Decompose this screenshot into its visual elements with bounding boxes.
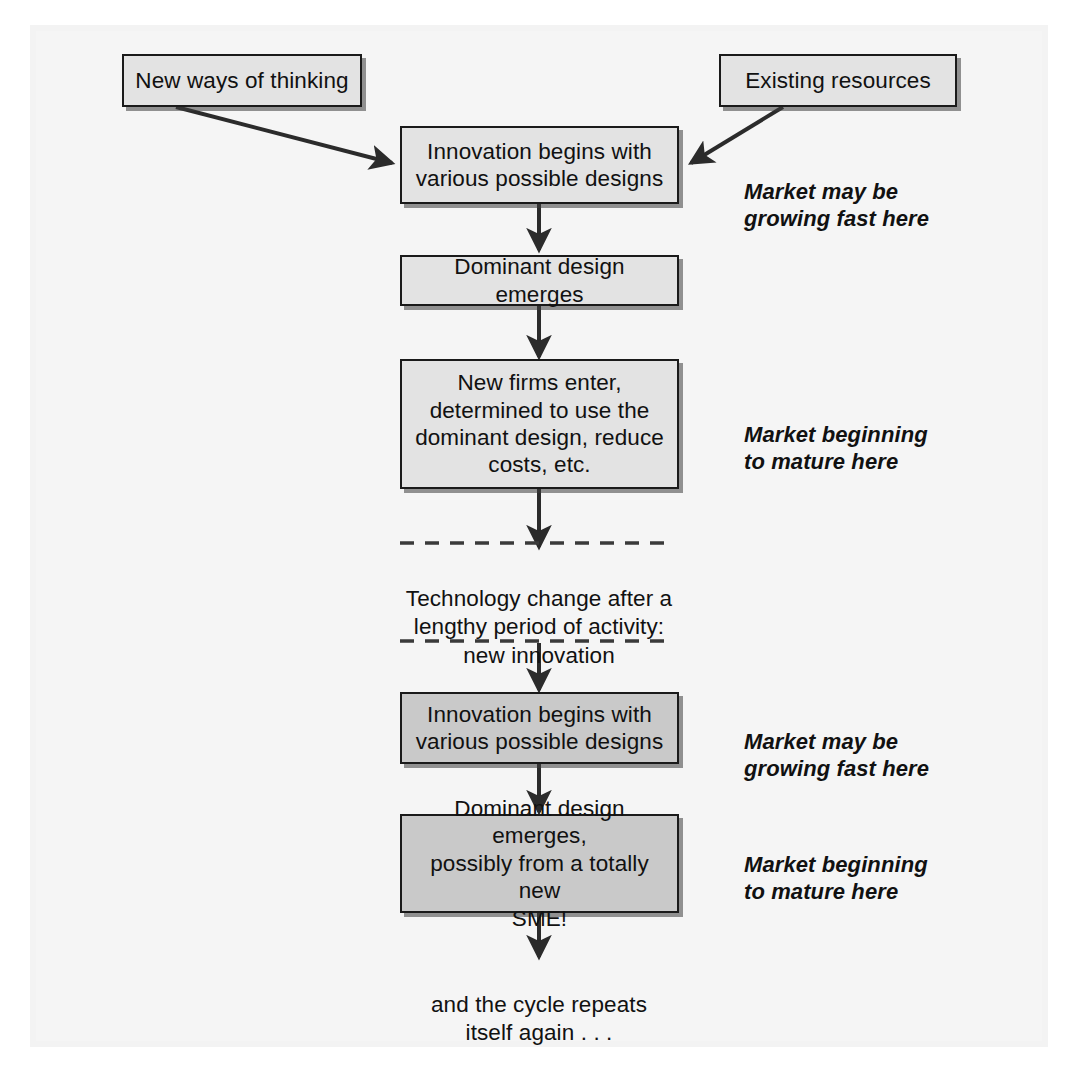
- node-dominant-design-emerges[interactable]: Dominant design emerges: [400, 255, 679, 306]
- node-new-firms-enter[interactable]: New firms enter, determined to use the d…: [400, 359, 679, 489]
- closing-text: and the cycle repeats itself again . . .: [431, 992, 647, 1046]
- note-text: Market may be growing fast here: [744, 729, 929, 782]
- node-new-ways-of-thinking[interactable]: New ways of thinking: [122, 54, 362, 107]
- technology-change-note: Technology change after a lengthy period…: [362, 556, 716, 670]
- note-text: Market may be growing fast here: [744, 179, 929, 232]
- node-label: Dominant design emerges, possibly from a…: [402, 795, 677, 932]
- cycle-repeats-note: and the cycle repeats itself again . . .: [372, 962, 706, 1048]
- note-text: Market beginning to mature here: [744, 422, 928, 475]
- note-text: Market beginning to mature here: [744, 852, 928, 905]
- node-label: Innovation begins with various possible …: [402, 701, 677, 756]
- node-label: Dominant design emerges: [402, 253, 677, 308]
- node-innovation-begins-2[interactable]: Innovation begins with various possible …: [400, 692, 679, 764]
- node-label: New ways of thinking: [124, 67, 360, 94]
- diagram-canvas: New ways of thinking Existing resources …: [0, 0, 1082, 1073]
- interstitial-text: Technology change after a lengthy period…: [406, 586, 672, 668]
- node-label: New firms enter, determined to use the d…: [402, 369, 677, 479]
- node-innovation-begins-1[interactable]: Innovation begins with various possible …: [400, 126, 679, 204]
- node-label: Innovation begins with various possible …: [402, 138, 677, 193]
- node-dominant-design-sme[interactable]: Dominant design emerges, possibly from a…: [400, 814, 679, 913]
- note-market-mature-2: Market beginning to mature here: [744, 823, 928, 906]
- note-market-growing-2: Market may be growing fast here: [744, 700, 929, 783]
- note-market-mature-1: Market beginning to mature here: [744, 393, 928, 476]
- node-existing-resources[interactable]: Existing resources: [719, 54, 957, 107]
- node-label: Existing resources: [721, 67, 955, 94]
- note-market-growing-1: Market may be growing fast here: [744, 150, 929, 233]
